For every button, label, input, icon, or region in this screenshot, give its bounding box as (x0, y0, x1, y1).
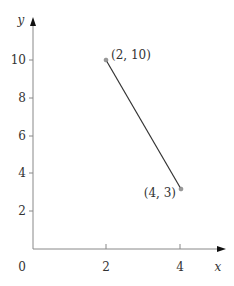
y-axis-arrow-icon (30, 17, 36, 26)
point-marker-b (179, 187, 183, 191)
origin-label: 0 (18, 260, 26, 274)
point-marker-a (104, 58, 108, 62)
x-ticks (106, 244, 180, 249)
y-tick-label-2: 2 (18, 204, 26, 218)
line-segment (106, 60, 181, 189)
x-tick-label-2: 2 (102, 260, 110, 274)
y-tick-label-8: 8 (18, 91, 26, 105)
y-tick-label-10: 10 (11, 53, 26, 67)
y-tick-label-4: 4 (18, 166, 26, 180)
point-label-b: (4, 3) (144, 186, 176, 200)
point-label-a: (2, 10) (111, 48, 151, 62)
x-axis-label: x (215, 260, 222, 274)
y-tick-label-6: 6 (18, 129, 26, 143)
x-axis-arrow-icon (217, 246, 226, 252)
chart-canvas: 10 8 6 4 2 2 4 0 x y (2, 10) (4, 3) (0, 0, 234, 286)
x-tick-label-4: 4 (176, 260, 184, 274)
y-ticks (29, 60, 33, 211)
y-axis-label: y (17, 13, 25, 27)
